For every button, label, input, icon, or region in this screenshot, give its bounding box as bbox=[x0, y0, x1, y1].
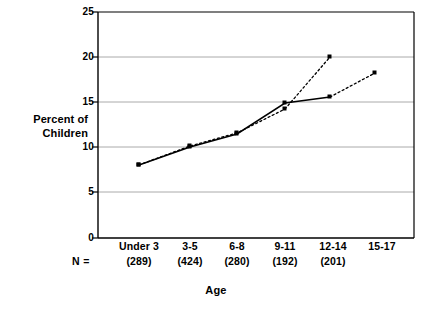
x-tick-label-0: Under 3 bbox=[109, 240, 169, 252]
sample-size-label: N = bbox=[72, 255, 90, 267]
sample-size-0: (289) bbox=[109, 255, 169, 267]
series-dotted-segment-3 bbox=[330, 73, 375, 97]
series-dotted-segment-2 bbox=[285, 57, 330, 109]
sample-size-2: (280) bbox=[214, 255, 260, 267]
x-tick-label-5: 15-17 bbox=[354, 240, 410, 252]
sample-size-4: (201) bbox=[305, 255, 361, 267]
x-tick-label-2: 6-8 bbox=[214, 240, 260, 252]
y-tick-marks bbox=[92, 12, 98, 238]
series-dotted-markers bbox=[137, 55, 377, 167]
x-tick-label-1: 3-5 bbox=[167, 240, 213, 252]
x-tick-label-4: 12-14 bbox=[305, 240, 361, 252]
chart-figure: Percent of Children 25 20 15 10 5 0 bbox=[0, 0, 432, 310]
x-axis-title: Age bbox=[0, 284, 432, 296]
axis-frame bbox=[98, 12, 414, 238]
x-tick-label-3: 9-11 bbox=[261, 240, 309, 252]
sample-size-1: (424) bbox=[167, 255, 213, 267]
sample-size-3: (192) bbox=[261, 255, 309, 267]
